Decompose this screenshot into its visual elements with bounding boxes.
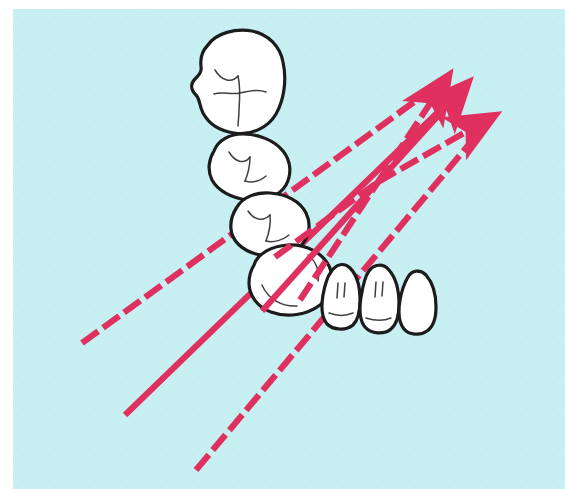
tooth-molar-1 [192,30,285,133]
tooth-5-fissure-0 [337,283,338,298]
tooth-6-fissure-0 [375,282,376,297]
dental-diagram-canvas [0,0,565,489]
tooth-5-fissure-1 [344,283,345,297]
tooth-6-outline [360,265,399,333]
tooth-6-fissure-1 [382,282,383,296]
tooth-molar-2 [209,134,290,200]
tooth-5-outline [322,265,360,330]
tooth-incisor-7 [399,271,436,334]
tooth-incisor-6 [360,265,399,333]
tooth-incisor-5 [322,265,360,330]
dental-arch-figure: Line drawing of a mandibular quadrant: f… [0,0,565,489]
tooth-7-outline [399,271,436,334]
